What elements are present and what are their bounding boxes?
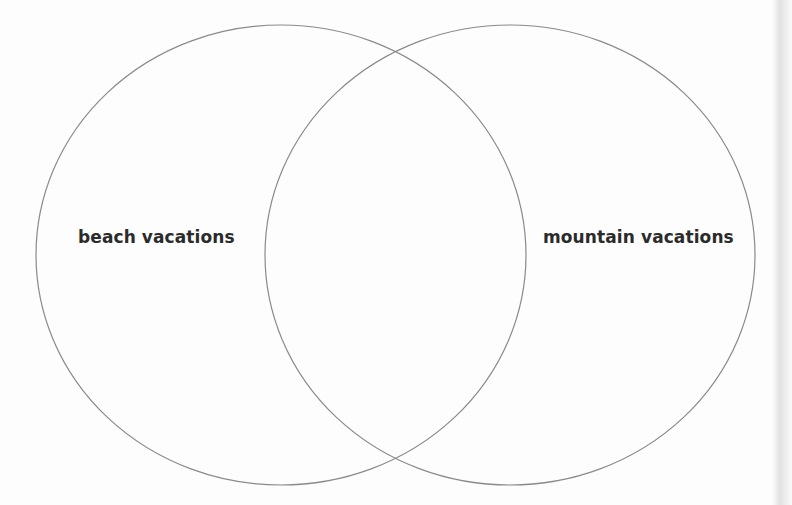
venn-circle-beach	[36, 25, 526, 485]
venn-label-beach-vacations: beach vacations	[78, 227, 235, 247]
venn-label-mountain-vacations: mountain vacations	[543, 227, 734, 247]
venn-circle-mountain	[265, 25, 755, 485]
venn-diagram	[0, 0, 792, 505]
worksheet-page: beach vacations mountain vacations	[0, 0, 792, 505]
page-gutter-shadow	[772, 0, 792, 505]
